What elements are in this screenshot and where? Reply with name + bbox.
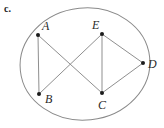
point-D [141,61,145,65]
segment-AB [38,35,39,94]
point-B [37,92,41,96]
vertex-group [36,32,145,96]
geometry-figure: c. A E D B C [0,0,164,128]
circle-outline [15,2,156,127]
chord-group [38,34,143,94]
vertex-label-A: A [42,20,49,32]
vertex-label-E: E [92,19,99,31]
segment-ED [102,34,143,63]
point-E [100,32,104,36]
vertex-label-D: D [148,58,157,70]
vertex-label-C: C [98,99,106,111]
vertex-label-B: B [45,93,52,105]
point-A [36,33,40,37]
figure-canvas [0,0,164,128]
point-C [100,91,104,95]
segment-CD [102,63,143,93]
